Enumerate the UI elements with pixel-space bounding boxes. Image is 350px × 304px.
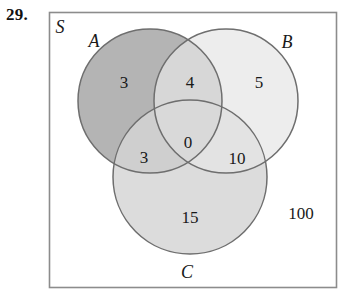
venn-stage: S A B C 3 4 5 3 0 10 15 100 — [0, 0, 350, 304]
venn-diagram-figure: 29. — [0, 0, 350, 304]
venn-svg — [0, 0, 350, 304]
